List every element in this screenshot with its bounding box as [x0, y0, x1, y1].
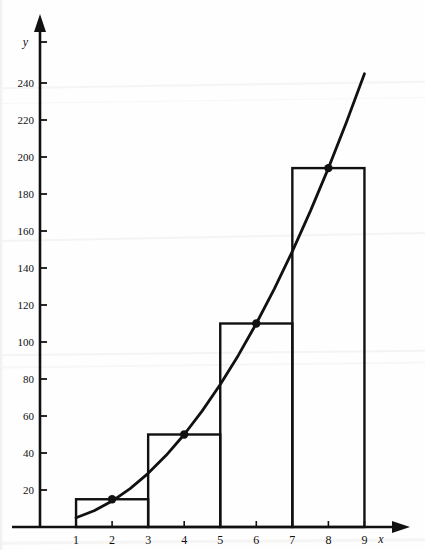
midpoint-marker: [252, 319, 260, 327]
x-axis-tick-label: 5: [217, 533, 223, 547]
x-axis-arrow: [392, 521, 410, 533]
x-axis: 123456789: [12, 521, 410, 547]
x-axis-tick-label: 3: [145, 533, 151, 547]
riemann-rectangle: [292, 168, 364, 527]
axis-name-labels: yx: [22, 35, 385, 546]
y-axis-arrow: [34, 14, 46, 32]
x-axis-tick-label: 8: [325, 533, 331, 547]
y-axis-tick-label: 100: [18, 336, 35, 348]
y-axis-tick-label: 220: [18, 114, 35, 126]
x-axis-tick-label: 1: [73, 533, 79, 547]
x-axis-tick-label: 6: [253, 533, 259, 547]
riemann-sum-chart: 20406080100120140160180200220240 1234567…: [0, 0, 425, 550]
y-axis-tick-label: 20: [23, 484, 35, 496]
y-axis-tick-label: 180: [18, 188, 35, 200]
midpoint-marker: [108, 495, 116, 503]
rectangle-series: [76, 168, 364, 527]
riemann-rectangle: [148, 435, 220, 528]
x-axis-tick-label: 7: [289, 533, 295, 547]
y-axis-name-label: y: [22, 35, 29, 49]
x-axis-tick-label: 2: [109, 533, 115, 547]
midpoint-marker: [324, 164, 332, 172]
y-axis-tick-label: 200: [18, 151, 35, 163]
x-axis-name-label: x: [377, 532, 384, 546]
y-axis-tick-label: 80: [23, 373, 35, 385]
y-axis-tick-label: 160: [18, 225, 35, 237]
y-axis-tick-label: 140: [18, 262, 35, 274]
y-axis-tick-label: 120: [18, 299, 35, 311]
figure-canvas: 20406080100120140160180200220240 1234567…: [0, 0, 425, 550]
y-axis-tick-label: 240: [18, 77, 35, 89]
y-axis-tick-label: 60: [23, 410, 35, 422]
riemann-rectangle: [220, 324, 292, 528]
x-axis-tick-label: 9: [361, 533, 367, 547]
y-axis-tick-label: 40: [23, 447, 35, 459]
y-axis: 20406080100120140160180200220240: [18, 14, 48, 527]
midpoint-marker: [180, 430, 188, 438]
x-axis-tick-label: 4: [181, 533, 187, 547]
